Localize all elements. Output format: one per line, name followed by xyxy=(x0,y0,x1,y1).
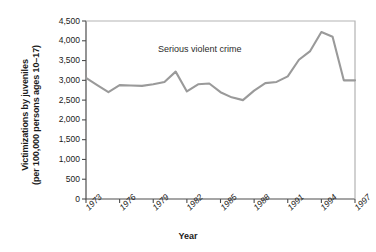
x-tick-label: 1982 xyxy=(185,193,205,213)
x-tick-label: 1973 xyxy=(84,193,104,213)
x-axis-title: Year xyxy=(0,231,376,241)
x-tick-label: 1979 xyxy=(151,193,171,213)
x-tick-label: 1997 xyxy=(353,193,373,213)
series-annotation-label: Serious violent crime xyxy=(158,44,242,54)
x-tick-label: 1994 xyxy=(319,193,339,213)
x-tick-label: 1988 xyxy=(252,193,272,213)
x-tick-label: 1991 xyxy=(286,193,306,213)
chart-figure: Victimizations by juveniles (per 100,000… xyxy=(0,0,376,252)
x-axis-tick-labels: 197319761979198219851988199119941997 xyxy=(0,0,376,252)
x-tick-label: 1976 xyxy=(118,193,138,213)
x-tick-label: 1985 xyxy=(219,193,239,213)
